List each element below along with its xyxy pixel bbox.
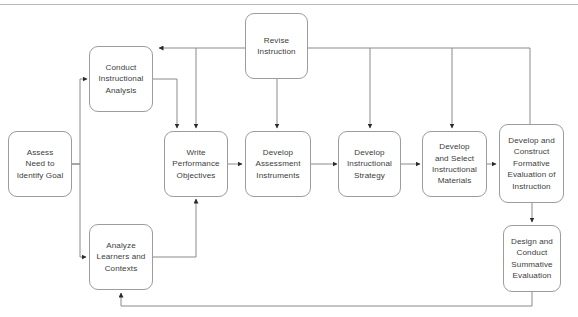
node-summative-evaluation-label: Design and Conduct Summative Evaluation — [507, 236, 557, 282]
node-formative-evaluation-label: Develop and Construct Formative Evaluati… — [503, 135, 560, 192]
edge-assess-to-analyze — [72, 164, 86, 257]
node-summative-evaluation[interactable]: Design and Conduct Summative Evaluation — [503, 225, 561, 292]
node-assess-need-label: Assess Need to Identify Goal — [12, 147, 68, 181]
node-analyze-learners-label: Analyze Learners and Contexts — [93, 240, 149, 274]
node-develop-strategy-label: Develop Instructional Strategy — [342, 147, 397, 181]
flowchart-canvas: Assess Need to Identify Goal Conduct Ins… — [0, 0, 578, 317]
node-develop-assessment[interactable]: Develop Assessment Instruments — [245, 131, 311, 197]
node-develop-assessment-label: Develop Assessment Instruments — [249, 147, 307, 181]
node-develop-materials-label: Develop and Select Instructional Materia… — [426, 141, 483, 187]
node-assess-need[interactable]: Assess Need to Identify Goal — [8, 131, 72, 197]
node-formative-evaluation[interactable]: Develop and Construct Formative Evaluati… — [499, 124, 564, 203]
node-write-objectives-label: Write Performance Objectives — [168, 147, 224, 181]
node-develop-materials[interactable]: Develop and Select Instructional Materia… — [422, 131, 487, 197]
node-revise-instruction[interactable]: Revise Instruction — [245, 13, 308, 79]
edge-summative-to-analyze — [121, 292, 532, 306]
edge-conduct-to-objectives — [152, 79, 177, 128]
node-revise-instruction-label: Revise Instruction — [249, 35, 304, 58]
edge-analyze-to-objectives — [153, 199, 196, 257]
node-write-objectives[interactable]: Write Performance Objectives — [164, 131, 228, 197]
node-conduct-analysis-label: Conduct Instructional Analysis — [93, 62, 149, 96]
node-conduct-analysis[interactable]: Conduct Instructional Analysis — [89, 46, 153, 112]
edge-revise-bus-right — [308, 48, 530, 124]
edge-assess-to-conduct — [72, 79, 87, 164]
node-analyze-learners[interactable]: Analyze Learners and Contexts — [89, 224, 153, 290]
node-develop-strategy[interactable]: Develop Instructional Strategy — [338, 131, 401, 197]
